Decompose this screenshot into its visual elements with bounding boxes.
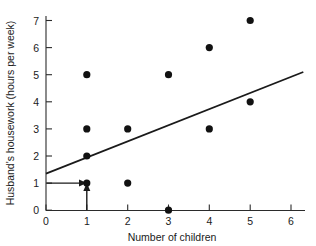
x-tick-label-5: 5 <box>247 215 253 227</box>
y-tick-label-4: 4 <box>33 96 39 108</box>
horizontal-reference-arrow <box>47 180 87 187</box>
x-tick-label-3: 3 <box>166 215 172 227</box>
y-tick-label-7: 7 <box>33 15 39 27</box>
x-tick-label-0: 0 <box>43 215 49 227</box>
data-point <box>124 180 131 187</box>
data-point <box>206 44 213 51</box>
data-point <box>165 207 172 214</box>
data-point <box>83 71 90 78</box>
data-point <box>83 180 90 187</box>
data-point <box>247 17 254 24</box>
data-point <box>165 71 172 78</box>
data-point <box>206 125 213 132</box>
data-point <box>83 152 90 159</box>
y-axis-title: Husband's housework (hours per week) <box>4 21 16 206</box>
vertical-reference-arrow <box>83 183 90 210</box>
x-axis-title: Number of children <box>128 231 217 243</box>
y-tick-label-0: 0 <box>33 204 39 216</box>
data-point <box>124 125 131 132</box>
y-tick-label-2: 2 <box>33 150 39 162</box>
y-tick-label-5: 5 <box>33 69 39 81</box>
plot-canvas: 7 6 5 4 3 2 1 0 0 1 2 3 4 5 6 Number of … <box>0 0 316 246</box>
x-tick-label-2: 2 <box>125 215 131 227</box>
scatter-plot-figure: 7 6 5 4 3 2 1 0 0 1 2 3 4 5 6 Number of … <box>0 0 316 246</box>
y-tick-label-1: 1 <box>33 177 39 189</box>
y-tick-label-3: 3 <box>33 123 39 135</box>
data-point <box>83 125 90 132</box>
x-tick-label-4: 4 <box>206 215 212 227</box>
x-tick-label-6: 6 <box>288 215 294 227</box>
data-point-group <box>83 17 254 214</box>
x-tick-label-1: 1 <box>84 215 90 227</box>
y-tick-label-6: 6 <box>33 42 39 54</box>
data-point <box>247 98 254 105</box>
y-axis-ticks <box>46 21 52 211</box>
